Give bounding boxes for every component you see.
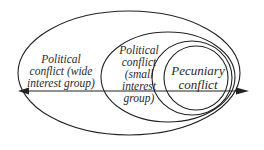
label-political-conflict-small: Political conflict (small interest group… [113, 44, 165, 104]
label-line: group) [113, 92, 165, 104]
label-line: Pecuniary [170, 64, 226, 78]
label-line: interest group) [26, 77, 96, 89]
label-line: Political [26, 53, 96, 65]
arrowhead-right-icon [236, 88, 249, 95]
label-political-conflict-wide: Political conflict (wide interest group) [26, 53, 96, 89]
label-line: conflict [170, 78, 226, 92]
label-line: conflict [113, 56, 165, 68]
label-line: interest [113, 80, 165, 92]
label-line: conflict (wide [26, 65, 96, 77]
label-line: (small [113, 68, 165, 80]
label-pecuniary-conflict: Pecuniary conflict [170, 64, 226, 92]
label-line: Political [113, 44, 165, 56]
